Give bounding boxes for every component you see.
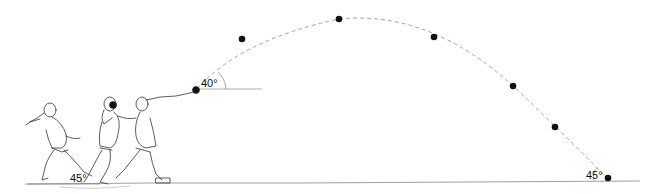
landing-angle-label: 45° [586, 170, 603, 181]
trajectory-dots [239, 16, 612, 182]
diagram-canvas [0, 0, 645, 194]
foot-angle-label: 45° [70, 173, 87, 184]
shot-position-1 [239, 36, 246, 43]
shot-put-diagram: 40° 45° 45° [0, 0, 645, 194]
shot-position-4 [510, 83, 517, 90]
trajectory-arc [197, 18, 606, 177]
release-angle-arc [218, 72, 226, 89]
athlete-phase-1 [26, 103, 92, 180]
shot-position-5 [552, 124, 559, 131]
ground-line [25, 181, 640, 188]
shot-position-2 [336, 16, 343, 23]
athlete-phase-2 [84, 97, 136, 184]
shot-landing [605, 175, 612, 182]
athlete-phase-3 [116, 87, 200, 184]
release-angle-label: 40° [201, 78, 218, 89]
shot-position-3 [431, 34, 438, 41]
